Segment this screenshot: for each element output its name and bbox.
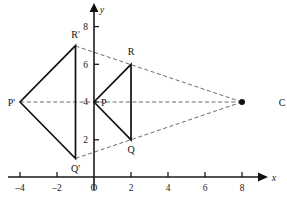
axes-group xyxy=(8,3,268,190)
vertex-label-p-prime: P' xyxy=(8,97,16,108)
x-tick-label: –4 xyxy=(14,183,25,193)
center-of-dilation-dot xyxy=(239,99,245,105)
x-tick-label: 6 xyxy=(203,183,208,193)
vertex-label-q-prime: Q' xyxy=(71,163,80,174)
y-tick-label: 2 xyxy=(83,135,88,145)
ray-c-through-q-icon xyxy=(76,102,243,159)
vertex-label-p: P xyxy=(101,97,107,108)
vertex-label-r: R xyxy=(128,46,135,57)
dilation-figure: –4 –2 O 2 4 6 8 2 4 6 8 x y P Q R P' Q' … xyxy=(0,0,287,200)
y-axis-arrow-icon xyxy=(90,3,99,12)
ray-c-through-r-icon xyxy=(76,46,243,102)
x-tick-label: 2 xyxy=(129,183,134,193)
y-axis-label: y xyxy=(99,4,105,15)
origin-label: O xyxy=(91,183,98,193)
x-tick-label: 4 xyxy=(166,183,171,193)
vertex-label-r-prime: R' xyxy=(71,29,80,40)
vertex-label-c: C xyxy=(279,97,286,108)
x-tick-label: 8 xyxy=(240,183,245,193)
x-axis-label: x xyxy=(271,172,277,183)
x-tick-label: –2 xyxy=(51,183,62,193)
y-tick-label: 8 xyxy=(83,22,88,32)
y-tick-label: 4 xyxy=(83,97,88,107)
x-axis-arrow-icon xyxy=(258,173,268,182)
y-tick-label: 6 xyxy=(83,60,88,70)
vertex-label-q: Q xyxy=(127,144,135,155)
